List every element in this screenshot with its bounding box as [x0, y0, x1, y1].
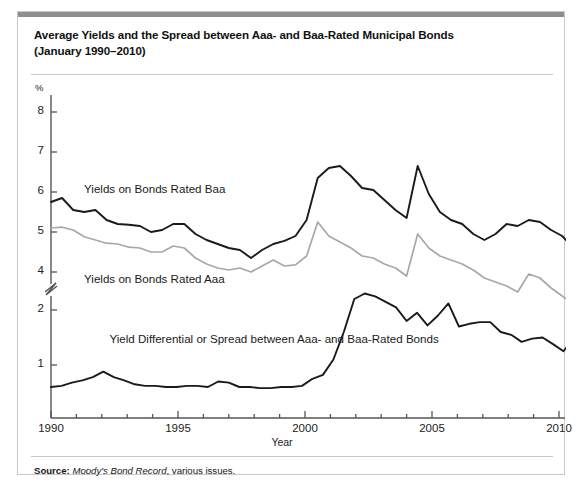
y-axis-unit-label: %: [35, 82, 43, 93]
y-tick-label: 5: [26, 224, 44, 236]
source-divider: [31, 456, 553, 457]
y-tick-label: 6: [26, 184, 44, 196]
x-tick-label: 1995: [158, 422, 198, 434]
chart-plot-area: [18, 12, 566, 476]
y-tick-label: 2: [26, 302, 44, 314]
x-axis-title: Year: [18, 436, 566, 448]
x-tick-label: 2005: [412, 422, 452, 434]
y-tick-label: 8: [26, 104, 44, 116]
x-tick-label: 2010: [539, 422, 579, 434]
source-detail: , various issues.: [167, 465, 236, 476]
series-line-aaa: [51, 222, 566, 310]
y-tick-label: 4: [26, 264, 44, 276]
source-prefix: Source:: [34, 465, 70, 476]
series-annotation-0: Yields on Bonds Rated Baa: [84, 182, 225, 196]
figure-container: Average Yields and the Spread between Aa…: [17, 11, 565, 475]
source-publication: Moody's Bond Record: [72, 465, 166, 476]
chart-svg: [18, 12, 566, 476]
x-tick-label: 2000: [285, 422, 325, 434]
y-tick-label: 1: [26, 357, 44, 369]
series-annotation-2: Yield Differential or Spread between Aaa…: [109, 332, 438, 346]
series-annotation-1: Yields on Bonds Rated Aaa: [84, 272, 225, 286]
x-tick-label: 1990: [31, 422, 71, 434]
y-tick-label: 7: [26, 144, 44, 156]
figure-source: Source: Moody's Bond Record, various iss…: [34, 465, 235, 476]
x-axis-title-text: Year: [271, 436, 292, 448]
